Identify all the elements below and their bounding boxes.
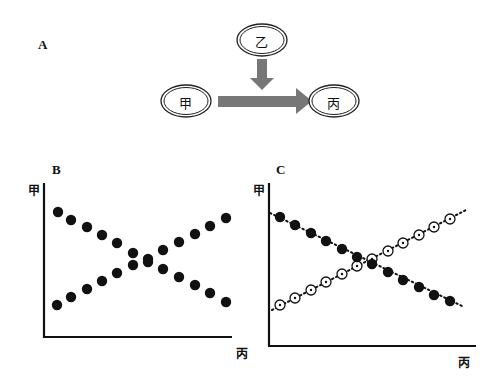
filled-marker <box>112 268 122 278</box>
filled-marker <box>158 245 168 255</box>
open-marker <box>321 277 331 287</box>
open-marker <box>275 300 285 310</box>
open-marker <box>337 269 347 279</box>
filled-marker <box>414 282 424 292</box>
node-label-bing: 丙 <box>327 93 340 112</box>
filled-marker <box>429 290 439 300</box>
filled-marker <box>112 238 122 248</box>
open-marker <box>445 214 455 224</box>
filled-marker <box>143 257 153 267</box>
filled-marker <box>158 264 168 274</box>
filled-marker <box>337 244 347 254</box>
filled-marker <box>383 267 393 277</box>
open-marker <box>290 293 300 303</box>
filled-marker <box>205 221 215 231</box>
filled-marker <box>367 259 377 269</box>
filled-marker <box>445 296 455 306</box>
figure-canvas <box>0 0 503 379</box>
filled-marker <box>190 280 200 290</box>
filled-marker <box>221 213 231 223</box>
filled-marker <box>66 215 76 225</box>
filled-marker <box>398 275 408 285</box>
panel-b-points <box>52 207 231 310</box>
open-marker <box>306 285 316 295</box>
filled-marker <box>306 228 316 238</box>
panel-b-axes <box>43 183 232 338</box>
filled-marker <box>205 288 215 298</box>
open-marker <box>398 238 408 248</box>
yi-arrow-head-icon <box>250 78 274 90</box>
node-label-yi: 乙 <box>255 32 268 51</box>
filled-marker <box>174 237 184 247</box>
filled-marker <box>221 297 231 307</box>
filled-marker <box>52 300 62 310</box>
main-arrow-shaft <box>218 96 298 107</box>
filled-marker <box>97 276 107 286</box>
yi-arrow-shaft <box>257 59 267 79</box>
filled-marker <box>53 207 63 217</box>
panel-c-y-label: 甲 <box>253 181 265 198</box>
filled-marker <box>82 222 92 232</box>
filled-marker <box>97 230 107 240</box>
open-marker <box>414 230 424 240</box>
open-marker <box>383 246 393 256</box>
node-label-jia: 甲 <box>179 93 192 112</box>
filled-marker <box>128 248 138 258</box>
filled-marker <box>290 220 300 230</box>
panel-c-x-label: 丙 <box>458 353 470 370</box>
open-marker <box>429 222 439 232</box>
filled-marker <box>82 284 92 294</box>
panel-b-x-label: 丙 <box>236 344 248 361</box>
filled-marker <box>66 292 76 302</box>
filled-marker <box>275 212 285 222</box>
filled-marker <box>174 272 184 282</box>
filled-marker <box>190 229 200 239</box>
filled-marker <box>321 236 331 246</box>
filled-marker <box>128 260 138 270</box>
filled-marker <box>352 252 362 262</box>
panel-b-y-label: 甲 <box>28 181 40 198</box>
open-marker <box>352 261 362 271</box>
